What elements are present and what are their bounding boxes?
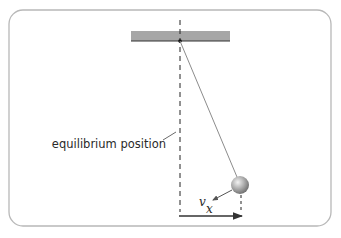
equilibrium-label: equilibrium position [52,137,166,151]
pendulum-bob [231,176,249,194]
diagram-frame [9,10,331,226]
displacement-label: x [206,202,213,216]
pendulum-diagram: equilibrium position v x [0,0,341,238]
velocity-arrow [213,190,232,200]
pendulum-rod [180,41,237,177]
velocity-label: v [199,195,206,209]
